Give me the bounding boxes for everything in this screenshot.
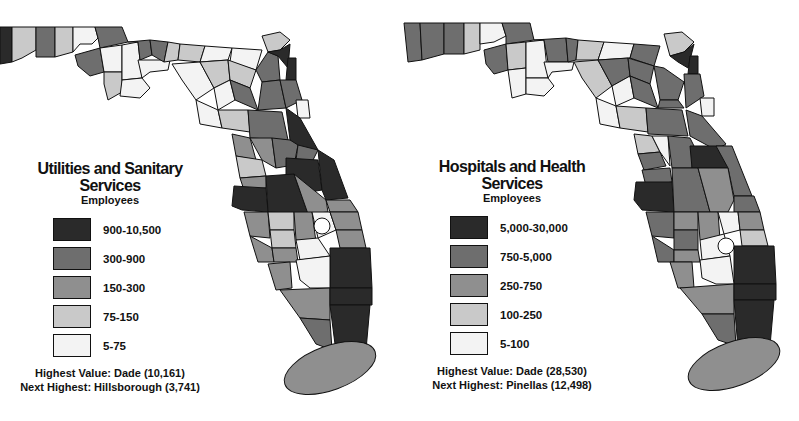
legend-swatch bbox=[53, 305, 91, 328]
legend-label: 5,000-30,000 bbox=[500, 222, 568, 234]
legend-label: 100-250 bbox=[500, 309, 542, 321]
legend-row: 5-100 bbox=[450, 329, 612, 358]
legend-row: 900-10,500 bbox=[53, 215, 210, 244]
legend-swatch bbox=[450, 245, 488, 268]
legend-swatch bbox=[53, 218, 91, 241]
highest-value-note: Highest Value: Dade (28,530) Next Highes… bbox=[412, 364, 612, 392]
legend-label: 250-750 bbox=[500, 280, 542, 292]
legend-row: 750-5,000 bbox=[450, 242, 612, 271]
legend-swatch bbox=[450, 303, 488, 326]
legend-swatch bbox=[53, 247, 91, 270]
highest-value-note: Highest Value: Dade (10,161) Next Highes… bbox=[10, 366, 210, 394]
legend-label: 300-900 bbox=[103, 253, 145, 265]
utilities-legend: Utilities and Sanitary Services Employee… bbox=[10, 160, 210, 394]
hospitals-legend: Hospitals and Health Services Employees … bbox=[412, 158, 612, 392]
legend-title: Utilities and Sanitary Services bbox=[10, 160, 210, 194]
legend-label: 150-300 bbox=[103, 282, 145, 294]
legend-row: 5-75 bbox=[53, 331, 210, 360]
hospitals-map-panel: Hospitals and Health Services Employees … bbox=[398, 0, 799, 421]
legend-row: 300-900 bbox=[53, 244, 210, 273]
utilities-map-panel: Utilities and Sanitary Services Employee… bbox=[0, 0, 400, 421]
legend-label: 5-75 bbox=[103, 340, 126, 352]
legend-row: 100-250 bbox=[450, 300, 612, 329]
legend-label: 900-10,500 bbox=[103, 224, 161, 236]
legend-label: 5-100 bbox=[500, 338, 529, 350]
legend-subtitle: Employees bbox=[412, 192, 612, 205]
legend-swatch bbox=[450, 332, 488, 355]
legend-row: 75-150 bbox=[53, 302, 210, 331]
legend-swatch bbox=[450, 274, 488, 297]
legend-row: 150-300 bbox=[53, 273, 210, 302]
legend-title: Hospitals and Health Services bbox=[412, 158, 612, 192]
legend-row: 250-750 bbox=[450, 271, 612, 300]
legend-swatch bbox=[450, 216, 488, 239]
legend-subtitle: Employees bbox=[10, 194, 210, 207]
legend-swatch bbox=[53, 276, 91, 299]
legend-swatch bbox=[53, 334, 91, 357]
legend-row: 5,000-30,000 bbox=[450, 213, 612, 242]
legend-label: 750-5,000 bbox=[500, 251, 552, 263]
legend-label: 75-150 bbox=[103, 311, 139, 323]
